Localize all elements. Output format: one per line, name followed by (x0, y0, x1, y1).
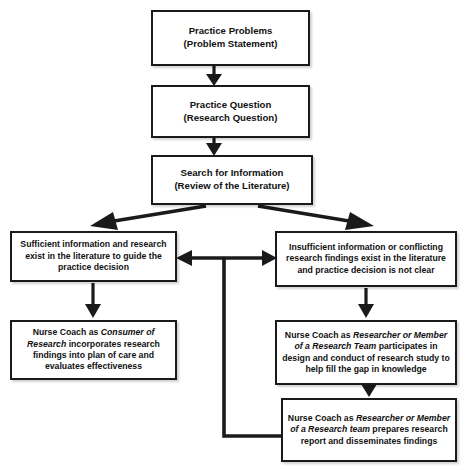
edge-researcher-member-to-prepares-report (361, 384, 377, 397)
node-nurse-coach-researcher-participates-label: Nurse Coach as Researcher or Member of a… (277, 330, 455, 376)
node-sufficient-information: Sufficient information and research exis… (10, 231, 177, 282)
edge-search-information-to-insufficient-info (258, 206, 374, 230)
edge-sufficient-insufficient-bidirectional (176, 250, 277, 266)
node-sufficient-information-label: Sufficient information and research exis… (12, 239, 175, 273)
node-nurse-coach-researcher-prepares-report-label: Nurse Coach as Researcher or Member of a… (283, 413, 455, 447)
edge-prepares-report-feedback-loop (224, 259, 281, 436)
node-nurse-coach-consumer-of-research: Nurse Coach as Consumer of Research inco… (10, 320, 177, 380)
edge-practice-problems-to-practice-question (206, 66, 222, 86)
node-search-for-information: Search for Information (Review of the Li… (151, 155, 313, 205)
edge-practice-question-to-search-information (206, 138, 222, 156)
edge-search-information-to-sufficient-info (90, 206, 206, 230)
prepares-report-text-lead: Nurse Coach as (288, 413, 356, 423)
researcher-member-text-lead: Nurse Coach as (285, 330, 353, 340)
edge-insufficient-info-to-researcher-member (358, 288, 374, 318)
edge-sufficient-info-to-consumer-research (85, 283, 101, 318)
node-nurse-coach-researcher-participates: Nurse Coach as Researcher or Member of a… (275, 320, 457, 385)
node-insufficient-information-label: Insufficient information or conflicting … (277, 242, 455, 276)
node-practice-question-label: Practice Question (Research Question) (180, 99, 282, 124)
node-practice-question: Practice Question (Research Question) (151, 85, 310, 138)
node-nurse-coach-researcher-prepares-report: Nurse Coach as Researcher or Member of a… (281, 398, 457, 462)
flowchart-canvas: Practice Problems (Problem Statement) Pr… (0, 0, 467, 470)
consumer-research-text-lead: Nurse Coach as (33, 327, 101, 337)
node-practice-problems-label: Practice Problems (Problem Statement) (180, 25, 282, 50)
node-insufficient-information: Insufficient information or conflicting … (275, 231, 457, 287)
node-practice-problems: Practice Problems (Problem Statement) (151, 10, 310, 66)
node-search-for-information-label: Search for Information (Review of the Li… (170, 167, 293, 192)
node-nurse-coach-consumer-of-research-label: Nurse Coach as Consumer of Research inco… (12, 327, 175, 373)
